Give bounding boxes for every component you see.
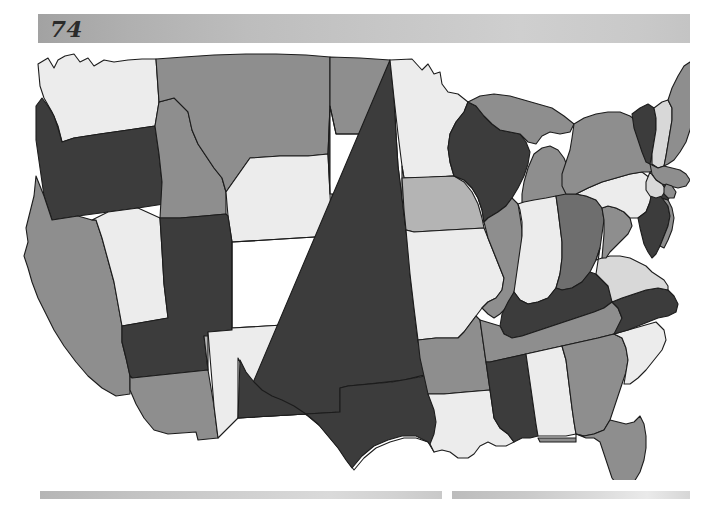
header-rule-bar <box>38 14 690 43</box>
us-choropleth-map <box>18 46 690 480</box>
state-arizona[interactable] <box>130 370 218 440</box>
footer-rule-bar-left <box>40 491 442 499</box>
us-map-svg <box>18 46 690 480</box>
footer-rule-bar-right <box>452 491 690 499</box>
page-canvas: 74 <box>0 0 707 506</box>
page-number: 74 <box>50 14 83 43</box>
state-indiana[interactable] <box>514 196 562 304</box>
